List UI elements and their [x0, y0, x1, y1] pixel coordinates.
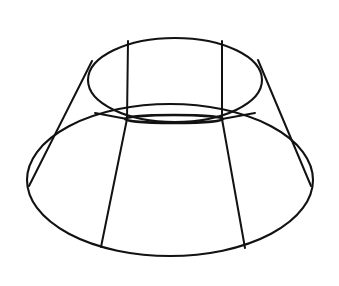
conical-frustum-diagram [0, 0, 339, 286]
figure-root [0, 0, 339, 286]
meridian-left-upper-line [127, 41, 128, 119]
